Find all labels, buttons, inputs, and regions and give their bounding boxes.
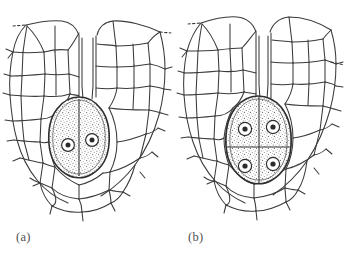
figure-root: (a) (0, 0, 351, 257)
panel-b: (b) (176, 0, 351, 257)
nucleus (238, 122, 251, 135)
panel-b-drawing (176, 0, 351, 257)
panel-a-caption: (a) (16, 230, 31, 245)
panel-a: (a) (0, 0, 175, 257)
embryo-a (49, 97, 109, 178)
embryo-b (226, 96, 291, 184)
nucleus (266, 157, 279, 170)
panel-b-caption: (b) (188, 230, 203, 245)
nucleus (266, 120, 279, 133)
nucleus (86, 134, 99, 147)
nucleus (62, 139, 75, 152)
dashed-edge-left-b (188, 23, 201, 24)
nucleus (238, 159, 251, 172)
panel-a-drawing (0, 0, 175, 257)
dashed-edge-right-a (160, 32, 171, 33)
dashed-edge-left-a (13, 25, 26, 26)
